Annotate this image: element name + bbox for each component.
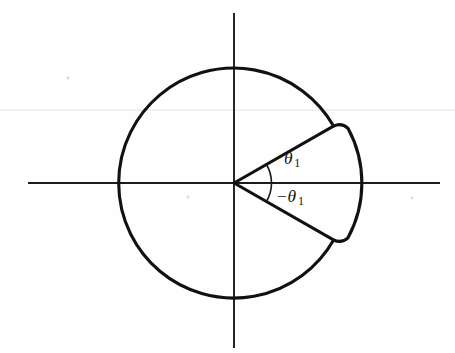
scan-speck bbox=[411, 197, 414, 200]
scan-speck bbox=[66, 76, 69, 79]
label-theta-positive: θ1 bbox=[284, 148, 301, 171]
scan-speck bbox=[187, 196, 190, 199]
theta-positive-subscript: 1 bbox=[293, 156, 301, 170]
contour-figure: θ1 −θ1 bbox=[0, 0, 455, 353]
theta-negative-sign: − bbox=[277, 186, 288, 206]
angle-arc-theta-negative bbox=[266, 183, 271, 202]
theta-negative-subscript: 1 bbox=[296, 194, 304, 208]
label-theta-negative: −θ1 bbox=[277, 186, 304, 209]
figure-canvas bbox=[0, 0, 455, 353]
theta-positive-symbol: θ bbox=[284, 148, 293, 168]
angle-arc-theta-positive bbox=[266, 164, 271, 183]
